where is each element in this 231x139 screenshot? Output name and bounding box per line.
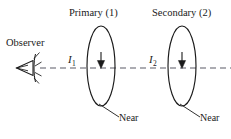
- rainbow-observation-diagram: Primary (1) Secondary (2) Observer I1 I2…: [0, 0, 231, 139]
- near-label-primary: Near: [119, 113, 138, 123]
- observer-label: Observer: [6, 38, 44, 49]
- down-arrowhead-icon-secondary: [178, 52, 185, 69]
- secondary-title-label: Secondary (2): [152, 8, 211, 19]
- down-arrowhead-icon-primary: [97, 52, 104, 69]
- near-leader-line-primary: [99, 104, 119, 117]
- primary-intensity-subscript: 1: [72, 59, 76, 68]
- primary-title-label: Primary (1): [69, 8, 118, 19]
- secondary-intensity-subscript: 2: [153, 59, 157, 68]
- eye-icon: [17, 53, 42, 84]
- near-leader-line-secondary: [180, 104, 200, 117]
- primary-intensity-label: I1: [68, 54, 75, 65]
- diagram-canvas: [0, 0, 231, 139]
- near-label-secondary: Near: [200, 113, 219, 123]
- secondary-intensity-label: I2: [149, 54, 156, 65]
